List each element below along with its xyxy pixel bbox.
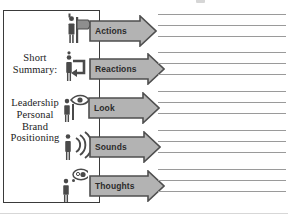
writing-line	[158, 52, 286, 53]
person-circular-arrow-icon	[62, 51, 92, 89]
writing-line	[158, 191, 286, 192]
person-sound-waves-icon	[61, 129, 91, 167]
writing-line	[158, 14, 286, 15]
writing-line	[158, 113, 286, 114]
arrow-actions[interactable]: Actions	[89, 15, 157, 47]
writing-line	[158, 180, 286, 181]
writing-line	[158, 152, 286, 153]
arrow-thoughts[interactable]: Thoughts	[89, 170, 165, 202]
writing-line	[158, 169, 286, 170]
brand-positioning-label: Leadership Personal Brand Positioning	[1, 97, 69, 144]
diagram-canvas: Short Summary: Leadership Personal Brand…	[0, 0, 288, 220]
writing-line	[158, 25, 286, 26]
writing-line	[158, 130, 286, 131]
arrow-look[interactable]: Look	[88, 92, 160, 124]
writing-line	[158, 91, 286, 92]
person-eye-icon	[60, 90, 90, 128]
writing-line	[158, 141, 286, 142]
person-thought-bubble-icon	[58, 168, 88, 206]
arrow-reactions[interactable]: Reactions	[89, 53, 165, 85]
writing-line	[158, 63, 286, 64]
writing-line	[158, 74, 286, 75]
short-summary-label: Short Summary:	[4, 52, 66, 76]
page-edge-rule	[0, 213, 288, 214]
writing-line	[158, 36, 286, 37]
cropped-glyph-artifact	[196, 0, 205, 3]
writing-line	[158, 102, 286, 103]
arrow-sounds[interactable]: Sounds	[89, 131, 161, 163]
